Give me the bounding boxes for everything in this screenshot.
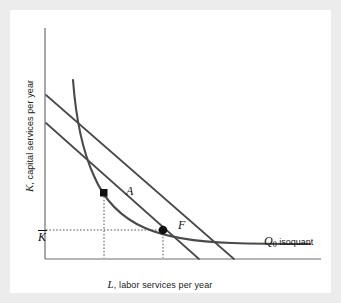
isoquant-word: isoquant: [279, 237, 313, 247]
isoquant-chart-svg: [10, 10, 331, 293]
isoquant-symbol: Q: [264, 234, 273, 248]
isoquant-label: Q0 isoquant: [264, 234, 313, 249]
figure-container: K, capital services per year L, labor se…: [0, 0, 341, 303]
x-axis-label-text: , labor services per year: [114, 280, 213, 290]
kbar-symbol: K: [38, 230, 46, 244]
isoquant-curve: [73, 80, 310, 244]
point-a-label: A: [126, 184, 133, 199]
x-axis-label: L, labor services per year: [50, 278, 270, 290]
plot-area: K, capital services per year L, labor se…: [10, 10, 331, 293]
y-axis-label-text: , capital services per year: [25, 80, 35, 185]
point-f-marker: [159, 226, 168, 235]
isocost-line-lower: [46, 123, 199, 259]
point-f-label: F: [178, 218, 185, 233]
y-axis-label-symbol: K: [23, 185, 35, 192]
y-axis-label: K, capital services per year: [23, 61, 35, 211]
point-a-marker: [100, 189, 108, 197]
isoquant-subscript: 0: [273, 240, 277, 249]
isocost-line-upper: [46, 95, 234, 259]
kbar-axis-label: K: [38, 230, 47, 245]
